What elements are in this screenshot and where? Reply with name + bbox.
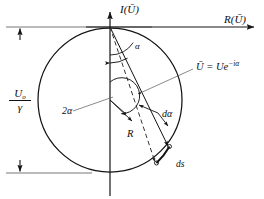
label-angle-two-alpha: 2α xyxy=(62,106,72,116)
radius-helper-line xyxy=(110,100,126,114)
amplitude-ratio-label: Uo γ xyxy=(9,88,31,113)
angle-alpha-arc xyxy=(110,43,133,63)
vector-equation-label: Ū = Ue−iα xyxy=(196,62,239,73)
amplitude-ratio-denominator: γ xyxy=(9,102,31,113)
axis-label-imaginary: I(Ū) xyxy=(120,4,139,15)
angle-two-alpha-arc xyxy=(110,78,140,114)
vector-chord-u-dashed xyxy=(110,27,155,162)
leader-line-vector-equation xyxy=(138,69,193,94)
label-angle-alpha: α xyxy=(135,42,140,51)
circle-diagram-canvas xyxy=(0,0,264,199)
leader-line-two-alpha xyxy=(73,97,113,111)
label-radius-r: R xyxy=(127,129,133,140)
amplitude-ratio-numerator: Uo xyxy=(9,88,31,99)
axis-label-real: R(Ū) xyxy=(224,14,246,25)
label-d-alpha: dα xyxy=(162,109,172,119)
label-ds: ds xyxy=(176,160,184,170)
